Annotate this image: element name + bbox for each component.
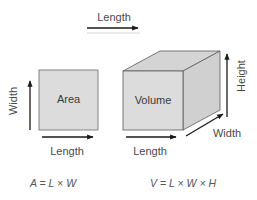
area-length-label: Length bbox=[50, 145, 84, 157]
volume-height-label: Height bbox=[235, 60, 247, 92]
volume-length-label: Length bbox=[133, 145, 167, 157]
area-formula: A = L × W bbox=[29, 177, 77, 189]
area-width-label: Width bbox=[7, 87, 19, 115]
top-length-label: Length bbox=[97, 11, 131, 23]
top-length-indicator: Length bbox=[87, 11, 140, 33]
volume-width-label: Width bbox=[213, 127, 241, 139]
volume-figure: Volume Height Width Length bbox=[123, 51, 247, 157]
area-shape-label: Area bbox=[57, 93, 81, 105]
volume-formula: V = L × W × H bbox=[150, 177, 216, 189]
area-figure: Area Width Length bbox=[7, 70, 98, 157]
volume-shape-label: Volume bbox=[135, 94, 172, 106]
area-volume-diagram: Length Area Width Length Volume Height W… bbox=[0, 0, 257, 200]
